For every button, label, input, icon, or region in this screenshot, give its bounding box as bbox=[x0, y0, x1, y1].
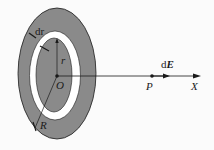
P-label: P bbox=[145, 80, 153, 92]
charged-disk-diagram: dr r O R P dE X bbox=[0, 0, 214, 150]
field-vector-arrow-icon bbox=[163, 74, 170, 79]
X-label: X bbox=[190, 80, 199, 92]
r-label: r bbox=[61, 54, 66, 66]
R-label: R bbox=[39, 119, 47, 131]
x-axis-arrow-icon bbox=[193, 74, 201, 79]
inner-disk bbox=[36, 38, 72, 112]
field-point bbox=[150, 74, 154, 78]
dr-label: dr bbox=[35, 25, 45, 37]
dE-label: dE bbox=[161, 58, 174, 70]
O-label: O bbox=[56, 79, 64, 91]
